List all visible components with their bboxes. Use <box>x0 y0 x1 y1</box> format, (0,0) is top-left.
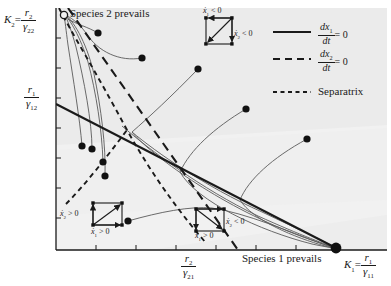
legend-frac-dx2dt: dx2dt <box>318 49 335 73</box>
region-label-species-1-prevails: Species 1 prevails <box>242 252 321 264</box>
phase-plane-figure: K2=r2γ22 r1γ12 r2γ21 K1=r1γ11 Species 2 … <box>0 0 391 286</box>
vector-label-top-x1: ẋ1 < 0 <box>203 6 222 17</box>
vector-label-right-x2-rel: < 0 <box>242 29 253 38</box>
endpoint-dot <box>242 105 249 112</box>
vector-label-bottom-x1-rel: > 0 <box>99 227 110 236</box>
equilibrium-K1-marker <box>331 243 342 254</box>
legend-dx1-den: dt <box>322 35 330 46</box>
axis-label-x-right: K1=r1γ11 <box>344 252 376 280</box>
x-right-num-sub: 1 <box>369 258 372 265</box>
vector-label-right-x2: ẋ2 < 0 <box>234 29 253 40</box>
axis-label-x-mid: r2γ21 <box>181 253 196 281</box>
vector-label-mid-x2: ẋ2 < 0 <box>226 217 245 228</box>
x-right-den-sub: 11 <box>367 273 374 280</box>
endpoint-dot <box>124 217 131 224</box>
axis-label-x-right-frac: r1γ11 <box>361 252 376 280</box>
y-top-den-sub: 22 <box>27 28 34 35</box>
axis-label-x-mid-frac: r2γ21 <box>181 253 196 281</box>
vector-label-mid-x2-sub: 2 <box>230 223 232 228</box>
axis-label-y-mid-frac: r1γ12 <box>24 84 39 112</box>
vector-label-mid-x1-sub: 1 <box>199 237 201 242</box>
legend-dx1-num-sub: 1 <box>329 27 332 34</box>
legend-entry-nullcline-x1: dx1dt= 0 <box>318 22 348 46</box>
y-mid-num-sub: 1 <box>32 90 35 97</box>
vector-label-left-x2: ẋ2 > 0 <box>60 209 79 220</box>
legend-dx2-num-sub: 2 <box>329 54 332 61</box>
endpoint-dot <box>138 54 145 61</box>
endpoint-dot <box>101 172 108 179</box>
legend-dx1-eq: = 0 <box>335 29 348 40</box>
vector-label-top-x1-rel: < 0 <box>211 6 222 15</box>
axis-label-y-mid: r1γ12 <box>24 84 39 112</box>
equilibrium-K2-marker <box>60 11 67 18</box>
region-label-species-2-prevails: Species 2 prevails <box>70 7 149 19</box>
legend-frac-dx1dt: dx1dt <box>318 22 335 46</box>
endpoint-dot <box>94 29 101 36</box>
vector-label-left-x2-sub: 2 <box>64 215 66 220</box>
axis-label-y-top-frac: r2γ22 <box>21 7 36 35</box>
y-mid-den-sub: 12 <box>30 105 37 112</box>
vector-label-mid-x1-rel: > 0 <box>203 231 214 240</box>
vector-label-bottom-x1: ẋ1 > 0 <box>91 227 110 238</box>
x-mid-num-sub: 2 <box>189 259 192 266</box>
endpoint-dot <box>78 142 85 149</box>
y-top-num-sub: 2 <box>29 13 32 20</box>
endpoint-dot <box>88 145 95 152</box>
vector-label-mid-x2-rel: < 0 <box>234 217 245 226</box>
legend-entry-separatrix: Separatrix <box>318 85 363 97</box>
endpoint-dot <box>194 65 201 72</box>
legend-dx2-eq: = 0 <box>335 56 348 67</box>
vector-label-left-x2-rel: > 0 <box>68 209 79 218</box>
x-mid-den-sub: 21 <box>187 274 194 281</box>
axis-label-y-top: K2=r2γ22 <box>4 7 36 35</box>
vector-label-bottom-x1-sub: 1 <box>95 233 97 238</box>
legend-dx2-den: dt <box>322 62 330 73</box>
endpoint-dot <box>99 158 106 165</box>
vector-label-right-x2-sub: 2 <box>238 35 240 40</box>
endpoint-dot <box>303 135 310 142</box>
vector-label-mid-x1: ẋ1 > 0 <box>195 231 214 242</box>
legend-entry-nullcline-x2: dx2dt= 0 <box>318 49 348 73</box>
